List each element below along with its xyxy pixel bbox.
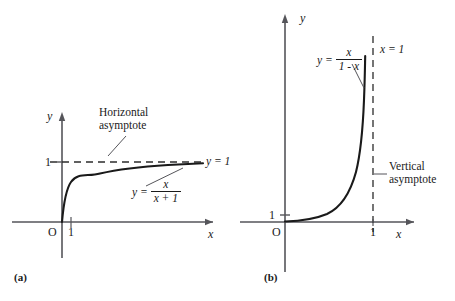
curve-equation-a-denominator: x + 1 bbox=[151, 192, 181, 205]
x-axis-b bbox=[240, 219, 414, 225]
y-axis-b bbox=[282, 14, 288, 272]
x-tick-label-b: 1 bbox=[370, 226, 376, 238]
panel-b: y x O 1 1 y = x 1 - x x = 1 Vertical asy… bbox=[228, 0, 455, 301]
curve-equation-a: y = x x + 1 bbox=[132, 181, 181, 206]
horizontal-asymptote-callout: Horizontal asymptote bbox=[99, 106, 171, 132]
panel-a: y x O 1 1 Horizontal asymptote y = 1 y =… bbox=[0, 0, 228, 301]
origin-label-b: O bbox=[272, 226, 281, 238]
y-tick-label-a: 1 bbox=[45, 156, 51, 168]
callout-leader-a bbox=[108, 136, 126, 156]
asymptote-label-a-text: y = 1 bbox=[206, 155, 230, 167]
curve-equation-b-fraction: x 1 - x bbox=[336, 47, 362, 72]
y-axis-label-b: y bbox=[300, 12, 305, 24]
curve-equation-a-fraction: x x + 1 bbox=[151, 179, 181, 204]
y-tick-label-b: 1 bbox=[269, 209, 275, 221]
x-axis-a bbox=[12, 219, 213, 225]
y-axis-a bbox=[59, 112, 65, 258]
horizontal-asymptote-label: y = 1 bbox=[206, 156, 230, 168]
origin-label-a: O bbox=[48, 226, 57, 238]
curve-equation-b-lead: y = bbox=[317, 54, 333, 66]
curve-equation-a-lead: y = bbox=[132, 186, 148, 198]
curve-equation-b-numerator: x bbox=[336, 47, 362, 60]
y-axis-label-a: y bbox=[47, 110, 52, 122]
panel-b-graphic bbox=[228, 0, 455, 301]
curve-equation-a-numerator: x bbox=[151, 179, 181, 192]
asymptote-label-b-text: x = 1 bbox=[380, 43, 404, 55]
x-axis-label-a: x bbox=[208, 228, 213, 240]
caption-a: (a) bbox=[14, 272, 27, 283]
x-tick-label-a: 1 bbox=[68, 226, 74, 238]
curve-equation-b: y = x 1 - x bbox=[317, 49, 362, 74]
asymptote-figure: y x O 1 1 Horizontal asymptote y = 1 y =… bbox=[0, 0, 455, 301]
vertical-asymptote-label: x = 1 bbox=[380, 44, 404, 56]
curve-equation-b-denominator: 1 - x bbox=[336, 60, 362, 73]
curve-b bbox=[285, 56, 365, 222]
x-axis-label-b: x bbox=[396, 228, 401, 240]
caption-b: (b) bbox=[264, 272, 277, 283]
vertical-asymptote-callout: Vertical asymptote bbox=[389, 160, 451, 186]
panel-a-graphic bbox=[0, 0, 228, 301]
